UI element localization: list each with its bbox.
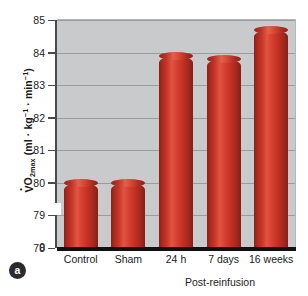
bar	[159, 56, 193, 248]
y-axis-tick-mark	[48, 85, 55, 87]
bar-top-cap	[207, 55, 241, 63]
bracket-label: Post-reinfusion	[157, 276, 283, 288]
y-axis-title-sup2: −1	[21, 72, 30, 80]
x-axis-tick-label: 16 weeks	[236, 254, 306, 265]
plot-area	[57, 20, 295, 248]
plot-border-top	[57, 19, 296, 20]
bar	[64, 183, 98, 248]
y-axis-line-upper	[55, 20, 57, 205]
y-axis-tick-label: 0	[5, 242, 45, 253]
y-axis-tick-label: 81	[5, 145, 45, 156]
bar	[254, 30, 288, 248]
bar	[207, 59, 241, 248]
bar-top-cap	[111, 179, 145, 187]
plot-border-right	[295, 19, 296, 249]
y-axis-tick-label: 83	[5, 80, 45, 91]
y-axis-title-subscript: 2max	[28, 158, 37, 177]
y-axis-tick-mark	[48, 150, 55, 152]
y-axis-tick-mark	[48, 248, 55, 250]
y-axis-tick-mark	[48, 52, 55, 54]
y-axis-tick-label: 82	[5, 113, 45, 124]
bar-top-cap	[64, 179, 98, 187]
y-axis-tick-mark	[48, 20, 55, 22]
x-axis-line	[57, 247, 296, 251]
y-axis-title-close: )	[22, 68, 34, 72]
bar-top-cap	[254, 26, 288, 34]
y-axis-tick-label: 80	[5, 178, 45, 189]
y-axis-tick-label: 79	[5, 210, 45, 221]
gridline	[57, 20, 295, 21]
figure-container: VO2max (ml · kg−1 · min−1) 8584838281807…	[0, 0, 308, 296]
y-axis-break	[50, 203, 61, 215]
y-axis-tick-mark	[48, 182, 55, 184]
y-axis-tick-label: 84	[5, 48, 45, 59]
y-axis-tick-mark	[48, 117, 55, 119]
y-axis-tick-label: 85	[5, 15, 45, 26]
y-axis-tick-mark	[48, 215, 55, 217]
panel-label-badge: a	[9, 262, 26, 279]
post-reinfusion-bracket: Post-reinfusion	[157, 277, 283, 289]
bar	[111, 183, 145, 248]
y-axis-line-lower	[55, 213, 57, 248]
bar-top-cap	[159, 52, 193, 60]
